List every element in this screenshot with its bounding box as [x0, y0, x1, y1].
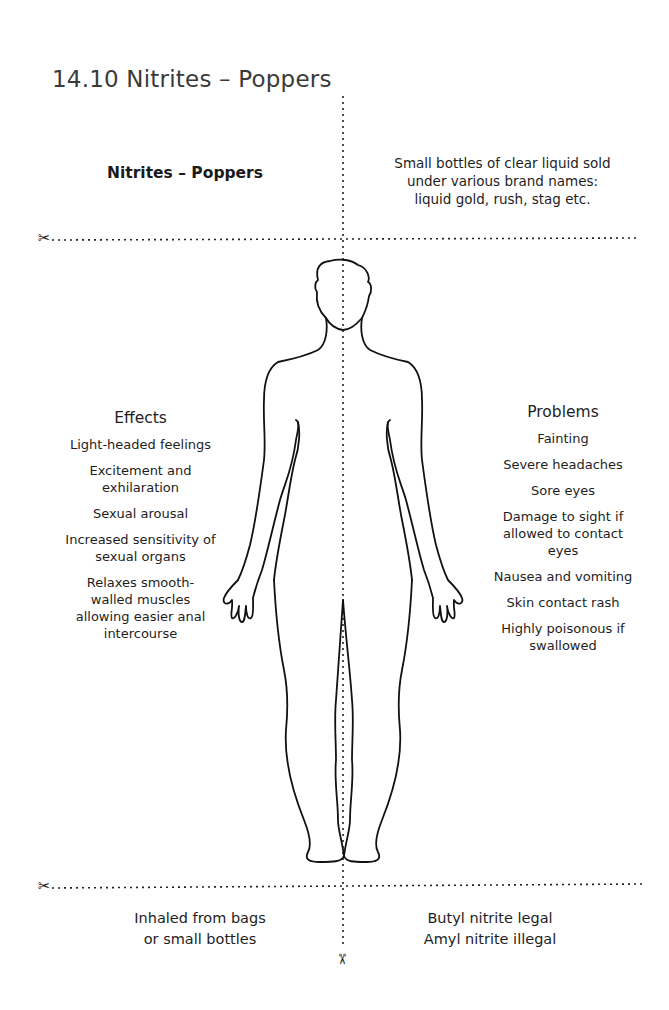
description-line: under various brand names:: [360, 172, 645, 190]
problem-item: Sore eyes: [468, 482, 658, 499]
effects-heading: Effects: [48, 410, 233, 427]
usage-line: Inhaled from bags: [110, 908, 290, 929]
problem-item: Severe headaches: [468, 456, 658, 473]
usage-method: Inhaled from bags or small bottles: [110, 908, 290, 950]
effects-list: Effects Light-headed feelings Excitement…: [48, 410, 233, 651]
problem-item: Damage to sight if allowed to contact ey…: [496, 508, 631, 559]
legal-status: Butyl nitrite legal Amyl nitrite illegal: [390, 908, 590, 950]
effect-item: Excitement and exhilaration: [81, 462, 201, 496]
legal-line: Amyl nitrite illegal: [390, 929, 590, 950]
problems-list: Problems Fainting Severe headaches Sore …: [468, 404, 658, 663]
problem-item: Skin contact rash: [468, 594, 658, 611]
description-line: Small bottles of clear liquid sold: [360, 154, 645, 172]
drug-name-heading: Nitrites – Poppers: [60, 164, 310, 182]
problem-item: Nausea and vomiting: [468, 568, 658, 585]
usage-line: or small bottles: [110, 929, 290, 950]
problem-item: Highly poisonous if swallowed: [496, 620, 631, 654]
problems-heading: Problems: [468, 404, 658, 421]
description-line: liquid gold, rush, stag etc.: [360, 190, 645, 208]
scissors-icon: ✂: [38, 879, 51, 894]
effect-item: Increased sensitivity of sexual organs: [56, 531, 226, 565]
scissors-icon: ✂: [38, 231, 51, 246]
effect-item: Sexual arousal: [48, 505, 233, 522]
effect-item: Light-headed feelings: [61, 436, 221, 453]
page-title: 14.10 Nitrites – Poppers: [52, 66, 332, 92]
top-cut-line: [52, 238, 640, 240]
drug-description: Small bottles of clear liquid sold under…: [360, 154, 645, 208]
effect-item: Relaxes smooth-walled muscles allowing e…: [76, 574, 206, 642]
legal-line: Butyl nitrite legal: [390, 908, 590, 929]
scissors-icon: ✂: [334, 953, 349, 966]
problem-item: Fainting: [468, 430, 658, 447]
bottom-cut-line: [52, 884, 642, 888]
